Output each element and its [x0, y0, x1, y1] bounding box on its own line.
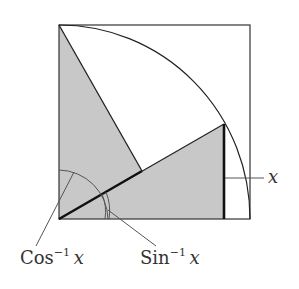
sin-exp: −1: [170, 246, 186, 259]
cos-var: x: [74, 247, 84, 268]
cos-exp: −1: [54, 246, 70, 259]
sin-inverse-label: Sin−1 x: [140, 246, 200, 268]
x-label: x: [268, 166, 278, 187]
sin-var: x: [190, 247, 200, 268]
cos-fn: Cos: [20, 247, 54, 268]
cos-inverse-label: Cos−1 x: [20, 246, 84, 268]
sin-fn: Sin: [140, 247, 170, 268]
